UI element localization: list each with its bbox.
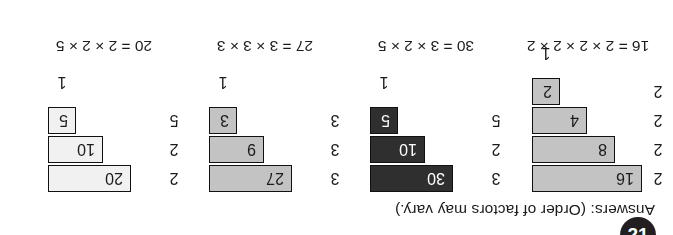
staircase-row: 2 8 xyxy=(503,135,673,164)
staircase-20: 2 20 2 10 5 5 1 20 = 2 × 2 × 5 xyxy=(19,0,189,235)
staircase-row: 2 16 xyxy=(503,164,673,193)
rotated-page-content: 21 Answers: (Order of factors may vary.)… xyxy=(0,0,673,235)
staircase-row: 3 30 xyxy=(341,164,511,193)
answer-key-sheet: 21 Answers: (Order of factors may vary.)… xyxy=(0,0,673,235)
staircase-row: 2 10 xyxy=(19,135,189,164)
staircase-30-rows: 3 30 2 10 5 5 1 xyxy=(341,106,511,193)
staircase-16-rows: 2 16 2 8 2 4 2 2 1 xyxy=(503,77,673,193)
quotient-bar: 10 xyxy=(370,136,425,163)
divisor-label: 3 xyxy=(326,112,344,130)
staircase-27-rows: 3 27 3 9 3 3 1 xyxy=(180,106,350,193)
quotient-bar: 5 xyxy=(370,107,398,134)
divisor-label: 5 xyxy=(165,112,183,130)
staircase-row: 5 5 1 xyxy=(341,106,511,135)
quotient-bar: 2 xyxy=(532,78,560,105)
divisor-label: 3 xyxy=(326,141,344,159)
staircase-row: 5 5 1 xyxy=(19,106,189,135)
quotient-bar: 30 xyxy=(370,165,453,192)
divisor-label: 2 xyxy=(487,141,505,159)
quotient-bar: 3 xyxy=(209,107,237,134)
staircase-27: 3 27 3 9 3 3 1 27 = 3 × 3 × 3 xyxy=(180,0,350,235)
factorization-equation: 16 = 2 × 2 × 2 × 2 xyxy=(503,37,673,55)
divisor-label: 2 xyxy=(165,170,183,188)
quotient-bar: 10 xyxy=(48,136,103,163)
factorization-equation: 30 = 3 × 2 × 5 xyxy=(341,37,511,55)
staircase-row: 2 4 xyxy=(503,106,673,135)
divisor-label: 2 xyxy=(165,141,183,159)
factorization-equation: 27 = 3 × 3 × 3 xyxy=(180,37,350,55)
quotient-bar: 16 xyxy=(532,165,642,192)
divisor-label: 2 xyxy=(649,141,667,159)
staircase-16: 2 16 2 8 2 4 2 2 1 16 = 2 × 2 × 2 × 2 xyxy=(503,0,673,235)
divisor-label: 3 xyxy=(326,170,344,188)
quotient-bar: 5 xyxy=(48,107,76,134)
staircase-row: 3 9 xyxy=(180,135,350,164)
divisor-label: 5 xyxy=(487,112,505,130)
terminator-one: 1 xyxy=(370,73,398,91)
factorization-equation: 20 = 2 × 2 × 5 xyxy=(19,37,189,55)
quotient-bar: 4 xyxy=(532,107,587,134)
divisor-label: 2 xyxy=(649,112,667,130)
staircase-row: 2 2 1 xyxy=(503,77,673,106)
quotient-bar: 8 xyxy=(532,136,615,163)
quotient-bar: 20 xyxy=(48,165,131,192)
terminator-one: 1 xyxy=(48,73,76,91)
divisor-label: 3 xyxy=(487,170,505,188)
quotient-bar: 9 xyxy=(209,136,264,163)
staircase-20-rows: 2 20 2 10 5 5 1 xyxy=(19,106,189,193)
staircase-row: 2 10 xyxy=(341,135,511,164)
terminator-one: 1 xyxy=(209,73,237,91)
staircase-row: 3 27 xyxy=(180,164,350,193)
staircase-row: 3 3 1 xyxy=(180,106,350,135)
staircase-30: 3 30 2 10 5 5 1 30 = 3 × 2 × 5 xyxy=(341,0,511,235)
divisor-label: 2 xyxy=(649,83,667,101)
divisor-label: 2 xyxy=(649,170,667,188)
staircase-row: 2 20 xyxy=(19,164,189,193)
quotient-bar: 27 xyxy=(209,165,292,192)
